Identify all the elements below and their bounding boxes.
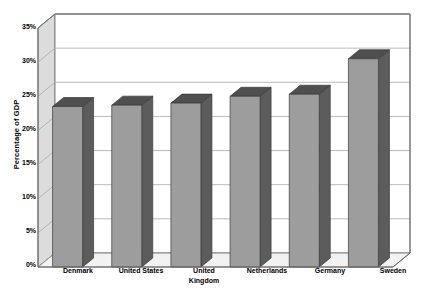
- y-tick-35: 35%: [10, 23, 36, 31]
- y-tick-10: 10%: [10, 193, 36, 201]
- y-tick-25: 25%: [10, 91, 36, 99]
- x-label-sweden: Sweden: [353, 266, 433, 276]
- bar-denmark: [53, 98, 94, 267]
- y-tick-15: 15%: [10, 159, 36, 167]
- y-tick-20: 20%: [10, 125, 36, 133]
- bar-chart: Percentage of GDP 35% 30% 25% 20% 15% 10…: [0, 0, 442, 304]
- x-axis-category-labels: Denmark United States United Kingdom Net…: [38, 266, 438, 304]
- y-tick-30: 30%: [10, 57, 36, 65]
- plot-area: [38, 10, 438, 300]
- y-tick-5: 5%: [10, 227, 36, 235]
- y-axis-tick-labels: 35% 30% 25% 20% 15% 10% 5% 0%: [2, 0, 36, 304]
- bar-sweden: [348, 50, 389, 267]
- plot-svg: [38, 10, 438, 300]
- bar-netherlands: [230, 87, 271, 267]
- bar-germany: [289, 85, 330, 267]
- y-tick-0: 0%: [10, 261, 36, 269]
- bar-united-kingdom: [171, 94, 212, 267]
- bar-united-states: [112, 96, 153, 267]
